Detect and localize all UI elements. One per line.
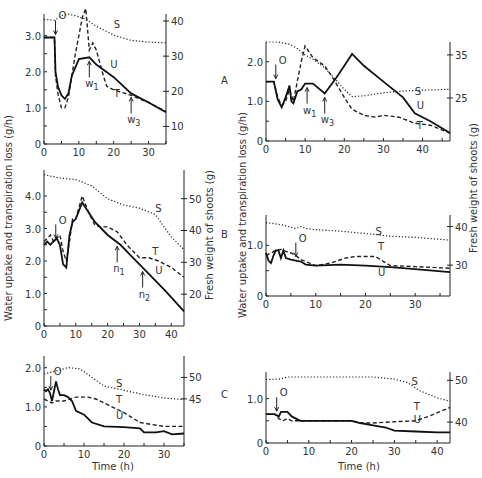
- x-tick-label: 30: [142, 147, 155, 158]
- annotation-label: n1: [113, 263, 124, 277]
- y-tick-label: 3.0: [25, 224, 41, 235]
- y-tick-label: 1.0: [25, 402, 41, 413]
- y2-tick-label: 30: [171, 51, 184, 62]
- x-tick-label: 30: [388, 446, 401, 457]
- left-ylabel: Water uptake and transpiration loss (g/h…: [3, 115, 14, 321]
- x-tick-label: 0: [263, 144, 269, 155]
- annotation-label: O: [279, 55, 287, 66]
- annotation-label: O: [59, 10, 67, 21]
- x-tick-label: 0: [41, 449, 47, 460]
- y2-tick-label: 20: [171, 86, 184, 97]
- y2-tick-label: 40: [455, 417, 468, 428]
- x-tick-label: 0: [263, 446, 269, 457]
- y2-tick-label: 25: [455, 93, 468, 104]
- axes-frame: [44, 170, 184, 326]
- x-tick-label: 40: [431, 446, 444, 457]
- series-t-line: [266, 408, 450, 424]
- y-tick-label: 2.0: [25, 256, 41, 267]
- series-label-t: T: [113, 88, 121, 99]
- y-tick-label: 1.0: [25, 103, 41, 114]
- x-tick-label: 10: [78, 449, 91, 460]
- y2-tick-label: 40: [455, 222, 468, 233]
- y2-tick-label: 50: [455, 375, 468, 386]
- series-label-s: S: [375, 226, 381, 237]
- series-label-t: T: [115, 394, 123, 405]
- y2-tick-label: 40: [189, 225, 202, 236]
- series-label-s: S: [411, 376, 417, 387]
- y-tick-label: 2.0: [247, 57, 263, 68]
- series-label-u: U: [110, 59, 117, 70]
- y2-tick-label: 40: [171, 16, 184, 27]
- axes-frame: [266, 215, 450, 296]
- right-ylabel-b-right: Fresh weight of shoots (g): [468, 123, 479, 253]
- annotation-label: n2: [139, 289, 150, 303]
- series-s-line: [266, 223, 450, 240]
- series-label-u: U: [378, 267, 385, 278]
- xlabel-c-left: Time (h): [91, 461, 134, 472]
- panel-c-left: 010203001.02.04550OSTU: [25, 356, 202, 460]
- y-tick-label: 0: [35, 441, 41, 452]
- x-tick-label: 20: [338, 144, 351, 155]
- panel-c-right: 01020304001.04050OSTU: [247, 372, 468, 457]
- y2-tick-label: 30: [189, 257, 202, 268]
- x-tick-label: 10: [69, 329, 82, 340]
- x-tick-label: 10: [309, 299, 322, 310]
- x-tick-label: 0: [263, 299, 269, 310]
- right-ylabel-b-left: Fresh weight of shoots (g): [204, 170, 215, 300]
- x-tick-label: 30: [158, 449, 171, 460]
- row-label-c: C: [221, 389, 228, 400]
- series-label-u: U: [414, 414, 421, 425]
- series-t-line: [44, 397, 184, 426]
- series-label-u: U: [116, 410, 123, 421]
- y-tick-label: 1.0: [247, 96, 263, 107]
- series-label-s: S: [415, 86, 421, 97]
- y2-tick-label: 20: [189, 289, 202, 300]
- series-label-s: S: [116, 378, 122, 389]
- y-tick-label: 0: [35, 321, 41, 332]
- y-tick-label: 0: [257, 136, 263, 147]
- annotation-label: O: [59, 215, 67, 226]
- annotation-label: w3: [321, 114, 334, 128]
- row-label-a: A: [221, 75, 228, 86]
- panel-b-left: 01020304001.02.03.04.020304050On1n2STU: [25, 170, 202, 340]
- series-label-u: U: [417, 100, 424, 111]
- series-label-t: T: [413, 401, 421, 412]
- y-tick-label: 4.0: [25, 191, 41, 202]
- x-tick-label: 0: [41, 147, 47, 158]
- y-tick-label: 2.0: [25, 363, 41, 374]
- series-label-s: S: [155, 203, 161, 214]
- y2-tick-label: 10: [171, 121, 184, 132]
- y2-tick-label: 50: [189, 372, 202, 383]
- annotation-label: O: [299, 233, 307, 244]
- panel-a-left: 010203001.02.03.010203040Ow1w3SUT: [25, 9, 184, 158]
- y-tick-label: 1.0: [25, 289, 41, 300]
- x-tick-label: 20: [107, 147, 120, 158]
- annotation-label: w1: [303, 105, 316, 119]
- y-tick-label: 0: [35, 139, 41, 150]
- y2-tick-label: 35: [455, 50, 468, 61]
- x-tick-label: 0: [41, 329, 47, 340]
- x-tick-label: 40: [165, 329, 178, 340]
- x-tick-label: 30: [133, 329, 146, 340]
- panel-b-right: 010203001.03040OSTU: [247, 215, 468, 310]
- y-tick-label: 1.0: [247, 394, 263, 405]
- x-tick-label: 20: [101, 329, 114, 340]
- x-tick-label: 20: [118, 449, 131, 460]
- figure-canvas: 010203001.02.03.010203040Ow1w3SUT0102030…: [0, 0, 482, 478]
- x-tick-label: 10: [299, 144, 312, 155]
- y-tick-label: 2.0: [25, 67, 41, 78]
- annotation-label: O: [280, 387, 288, 398]
- annotation-label: w1: [85, 78, 98, 92]
- panel-a-right: 01020304001.02.02535Ow1w3SUT: [247, 42, 468, 155]
- y-tick-label: 3.0: [25, 31, 41, 42]
- x-tick-label: 30: [377, 144, 390, 155]
- row-label-b: B: [221, 229, 228, 240]
- y2-tick-label: 30: [455, 260, 468, 271]
- y2-tick-label: 45: [189, 394, 202, 405]
- series-s-line: [266, 42, 450, 97]
- middle-ylabel: Water uptake and transpiration loss (g/h…: [237, 112, 248, 318]
- series-s-line: [44, 175, 184, 250]
- annotation-label: w3: [127, 114, 140, 128]
- series-u-line: [266, 412, 450, 433]
- series-label-t: T: [151, 246, 159, 257]
